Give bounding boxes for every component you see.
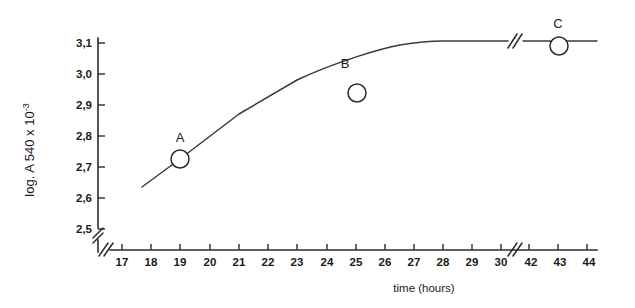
x-tick-label-23: 23 [291, 256, 304, 268]
chart-figure: 3,1 3,0 2,9 2,8 2,7 2,6 2,5 log. A 540 x… [0, 0, 635, 308]
marker-circle-a[interactable] [171, 150, 189, 168]
svg-text:log. A 540 x 10-3: log. A 540 x 10-3 [21, 103, 37, 196]
data-series-growth-curve [142, 34, 597, 187]
x-tick-label-28: 28 [437, 256, 450, 268]
annotated-point-b[interactable]: B [341, 56, 366, 102]
point-label-a: A [176, 130, 185, 145]
x-axis: 17 18 19 20 21 22 23 24 25 26 27 28 29 3… [99, 243, 597, 294]
y-axis: 3,1 3,0 2,9 2,8 2,7 2,6 2,5 log. A 540 x… [21, 37, 105, 252]
x-tick-label-24: 24 [321, 256, 334, 268]
x-tick-label-30: 30 [495, 256, 508, 268]
x-tick-label-44: 44 [583, 256, 596, 268]
y-axis-tick-labels: 3,1 3,0 2,9 2,8 2,7 2,6 2,5 [76, 37, 93, 235]
curve-break-icon [508, 34, 522, 48]
curve-rising-segment [142, 41, 508, 187]
y-tick-label-2-6: 2,6 [76, 192, 92, 204]
point-label-b: B [341, 56, 350, 71]
x-tick-label-29: 29 [466, 256, 479, 268]
x-axis-title: time (hours) [393, 282, 455, 294]
marker-circle-b[interactable] [348, 84, 366, 102]
y-axis-title-text: log. A 540 x 10 [22, 111, 37, 196]
marker-circle-c[interactable] [550, 37, 568, 55]
x-tick-label-27: 27 [408, 256, 421, 268]
annotated-point-c[interactable]: C [550, 16, 568, 55]
y-tick-label-2-8: 2,8 [76, 130, 93, 142]
annotated-point-a[interactable]: A [171, 130, 189, 168]
x-tick-label-26: 26 [379, 256, 392, 268]
y-tick-label-3-0: 3,0 [76, 68, 92, 80]
y-tick-label-2-5: 2,5 [76, 223, 93, 235]
y-tick-label-2-7: 2,7 [76, 161, 92, 173]
y-tick-label-3-1: 3,1 [76, 37, 93, 49]
point-label-c: C [553, 16, 562, 31]
x-tick-label-18: 18 [145, 256, 158, 268]
y-axis-ticks [98, 43, 105, 229]
x-tick-label-43: 43 [554, 256, 567, 268]
y-axis-title-exponent: -3 [21, 103, 31, 111]
y-axis-title: log. A 540 x 10-3 [21, 103, 37, 196]
y-tick-label-2-9: 2,9 [76, 99, 92, 111]
x-tick-label-42: 42 [525, 256, 538, 268]
x-tick-label-17: 17 [116, 256, 129, 268]
line-chart: 3,1 3,0 2,9 2,8 2,7 2,6 2,5 log. A 540 x… [0, 0, 635, 308]
x-tick-label-22: 22 [262, 256, 275, 268]
x-tick-label-21: 21 [233, 256, 246, 268]
x-tick-label-20: 20 [204, 256, 217, 268]
x-tick-label-19: 19 [174, 256, 187, 268]
x-axis-tick-labels: 17 18 19 20 21 22 23 24 25 26 27 28 29 3… [116, 256, 596, 268]
x-tick-label-25: 25 [350, 256, 363, 268]
